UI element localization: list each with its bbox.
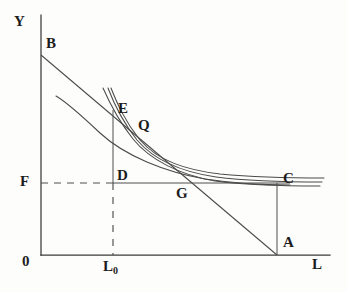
- axis-l-label: L: [312, 257, 322, 272]
- axis-y-label: Y: [14, 14, 25, 29]
- point-e-label: E: [118, 101, 128, 116]
- tick-label-l-zero-subscript: 0: [113, 265, 118, 276]
- point-c-label: C: [283, 171, 294, 186]
- point-q-label: Q: [138, 118, 150, 133]
- tick-label-l-zero: L0: [103, 259, 118, 276]
- indifference-curve-lower: [111, 88, 324, 178]
- axes-group: [41, 15, 330, 255]
- budget-line-BA: [41, 55, 277, 255]
- production-frontier-curve: [56, 96, 290, 185]
- point-d-label: D: [117, 168, 128, 183]
- origin-zero-label: 0: [22, 254, 30, 269]
- point-f-label: F: [20, 174, 29, 189]
- point-g-label: G: [176, 186, 188, 201]
- tick-label-l-zero-base: L: [103, 258, 113, 274]
- budget-line-group: [41, 55, 277, 255]
- point-a-label: A: [283, 235, 294, 250]
- figure-root: Y B E Q D G C A F 0 L0 L: [0, 0, 347, 292]
- indifference-curve-middle: [108, 88, 322, 182]
- point-b-label: B: [46, 36, 56, 51]
- helper-lines-group: [41, 110, 290, 255]
